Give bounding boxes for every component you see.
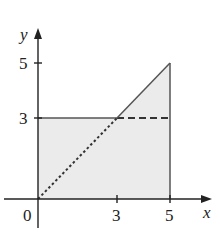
x-tick-label-3: 3 xyxy=(112,206,121,225)
y-axis-label: y xyxy=(18,25,28,44)
x-axis-label: x xyxy=(202,203,211,222)
y-tick-label-3: 3 xyxy=(19,109,28,128)
y-tick-label-5: 5 xyxy=(19,54,28,73)
origin-label: 0 xyxy=(23,206,32,225)
x-tick-label-5: 5 xyxy=(165,206,174,225)
x-axis-arrow-icon xyxy=(201,195,212,203)
y-axis-arrow-icon xyxy=(34,28,42,39)
region-diagram: y x 5 3 0 3 5 xyxy=(0,0,220,238)
